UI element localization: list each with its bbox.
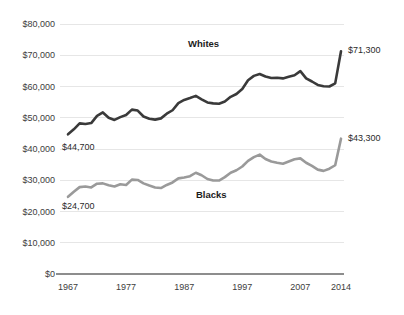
series-label-blacks: Blacks: [196, 189, 227, 200]
series-line-whites: [68, 51, 341, 134]
y-tick-label: $0: [45, 269, 55, 279]
y-tick-label: $80,000: [22, 19, 55, 29]
income-by-race-line-chart: $80,000$70,000$60,000$50,000$40,000$30,0…: [0, 0, 404, 315]
annotation-blacks-start-value: $24,700: [62, 201, 95, 211]
y-tick-label: $40,000: [22, 144, 55, 154]
annotation-whites-start-value: $44,700: [62, 142, 95, 152]
annotation-blacks-end-value: $43,300: [348, 133, 381, 143]
y-tick-label: $30,000: [22, 175, 55, 185]
x-tick-label: 2014: [319, 282, 363, 292]
x-tick-label: 2007: [278, 282, 322, 292]
series-label-whites: Whites: [188, 38, 219, 49]
x-tick-label: 1977: [104, 282, 148, 292]
x-tick-label: 1987: [162, 282, 206, 292]
y-tick-label: $60,000: [22, 82, 55, 92]
y-tick-label: $50,000: [22, 113, 55, 123]
gridlines: [60, 24, 344, 243]
annotation-whites-end-value: $71,300: [348, 45, 381, 55]
x-tick-label: 1997: [220, 282, 264, 292]
series-lines: [68, 51, 341, 197]
y-tick-label: $20,000: [22, 207, 55, 217]
x-tick-label: 1967: [46, 282, 90, 292]
y-tick-label: $10,000: [22, 238, 55, 248]
y-tick-label: $70,000: [22, 50, 55, 60]
